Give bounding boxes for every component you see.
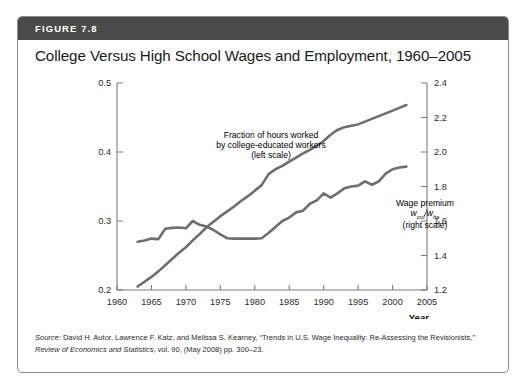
- left-axis-tick-label: 0.3: [98, 216, 111, 226]
- x-axis-tick-label: 2000: [382, 297, 402, 307]
- left-axis-tick-label: 0.2: [98, 285, 111, 295]
- annotation-fraction-series: Fraction of hours worked by college-educ…: [201, 130, 341, 160]
- right-axis-tick-label: 1.8: [434, 182, 447, 192]
- right-axis-tick-label: 2.2: [434, 113, 447, 123]
- left-axis-tick-label: 0.4: [98, 147, 111, 157]
- source-prefix: Source:: [35, 333, 61, 342]
- source-journal: Review of Economics and Statistics: [35, 345, 153, 354]
- annotation-fraction-line1: Fraction of hours worked: [201, 130, 341, 140]
- x-axis-tick-label: 1960: [107, 297, 127, 307]
- source-authors: David H. Autor, Lawrence F. Katz, and Me…: [61, 333, 475, 342]
- annotation-premium-series: Wage premium wcol/whs (right scale): [373, 198, 477, 230]
- annotation-fraction-line3: (left scale): [201, 150, 341, 160]
- x-axis-tick-label: 1975: [210, 297, 230, 307]
- right-axis-tick-label: 2.4: [434, 78, 447, 88]
- annotation-premium-line1: Wage premium: [373, 198, 477, 208]
- symbol-hs-subscript: hs: [433, 214, 439, 220]
- x-axis-tick-label: 1995: [348, 297, 368, 307]
- annotation-fraction-line2: by college-educated workers: [201, 140, 341, 150]
- x-axis-tick-label: 1970: [176, 297, 196, 307]
- x-axis-title: Year: [409, 312, 430, 319]
- x-axis-tick-label: 1990: [313, 297, 333, 307]
- x-axis-tick-label: 1980: [245, 297, 265, 307]
- figure-number-label: FIGURE 7.8: [35, 23, 98, 34]
- x-axis-tick-label: 2005: [417, 297, 437, 307]
- page-title: College Versus High School Wages and Emp…: [35, 47, 471, 64]
- chart-svg: 0.20.30.40.51.21.41.61.82.02.22.41960196…: [18, 73, 509, 319]
- x-axis-tick-label: 1965: [141, 297, 161, 307]
- source-note: Source: David H. Autor, Lawrence F. Katz…: [35, 332, 487, 355]
- chart-plot-area: 0.20.30.40.51.21.41.61.82.02.22.41960196…: [18, 73, 509, 319]
- annotation-premium-line3: (right scale): [373, 220, 477, 230]
- figure-card: FIGURE 7.8 College Versus High School Wa…: [17, 16, 509, 373]
- x-axis-tick-label: 1985: [279, 297, 299, 307]
- right-axis-tick-label: 2.0: [434, 147, 447, 157]
- right-axis-tick-label: 1.2: [434, 285, 447, 295]
- annotation-premium-ratio-symbol: wcol/whs: [373, 208, 477, 220]
- series-line-wage-premium: [138, 167, 407, 242]
- left-axis-tick-label: 0.5: [98, 78, 111, 88]
- right-axis-tick-label: 1.4: [434, 251, 447, 261]
- source-citation: , vol. 90, (May 2008) pp. 300–23.: [153, 345, 263, 354]
- figure-header-bar: FIGURE 7.8: [18, 17, 508, 40]
